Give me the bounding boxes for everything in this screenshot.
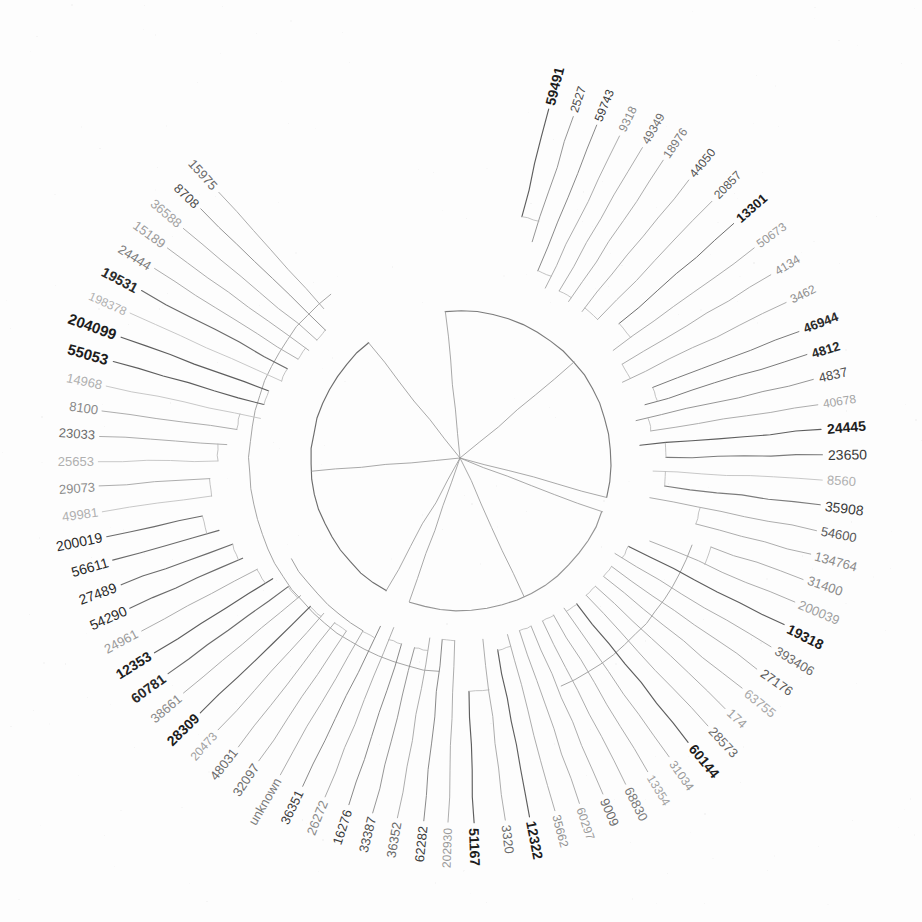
phylogenetic-tree-svg <box>0 0 922 922</box>
tree-branches <box>98 109 822 823</box>
figure-canvas: 5949125275974393184934918976440502085713… <box>0 0 922 922</box>
